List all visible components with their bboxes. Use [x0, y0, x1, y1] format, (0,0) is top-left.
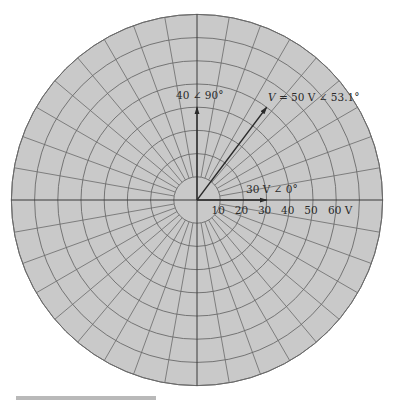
- tick-label-30: 30: [258, 204, 271, 216]
- tick-label-20: 20: [235, 204, 248, 216]
- tick-label-40: 40: [281, 204, 294, 216]
- polar-grid-diagram: 102030405060 V 30 V ∠ 0°40 ∠ 90°V = 50 V…: [0, 0, 394, 400]
- tick-label-50: 50: [304, 204, 317, 216]
- phasor-30v-label: 30 V ∠ 0°: [246, 183, 298, 195]
- phasor-v-label: V = 50 V ∠ 53.1°: [268, 91, 359, 103]
- phasor-40-label: 40 ∠ 90°: [176, 89, 223, 101]
- tick-label-60: 60 V: [328, 204, 353, 216]
- figure-caption-cutoff: [16, 396, 156, 400]
- tick-label-10: 10: [212, 204, 225, 216]
